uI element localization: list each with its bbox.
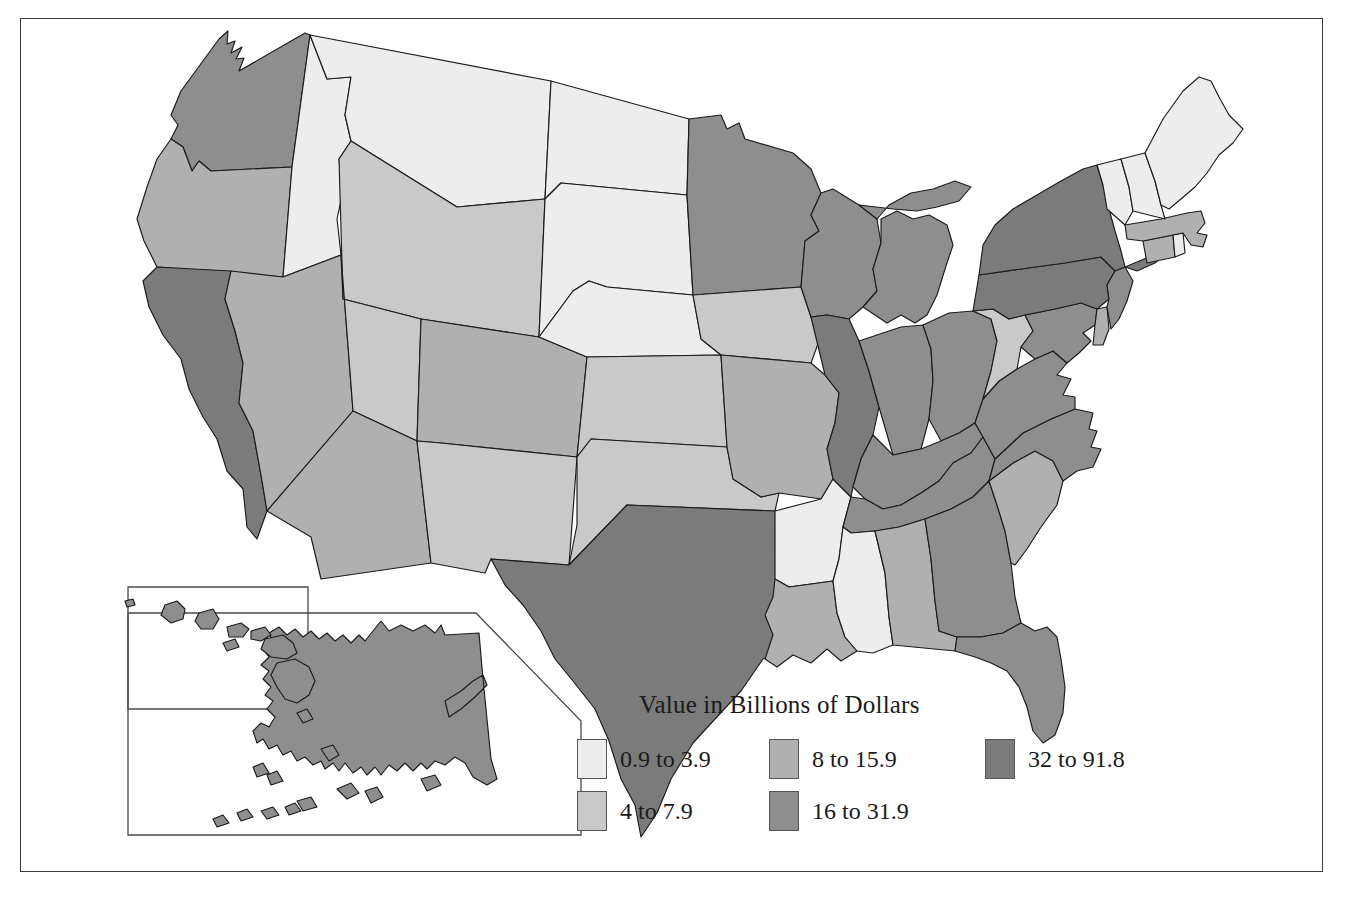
legend-swatch-1 [577, 791, 607, 831]
state-RI[interactable] [1173, 233, 1185, 257]
alaska-inset [213, 621, 497, 827]
scan-edge-artifact [0, 0, 1349, 14]
legend-entry-2[interactable]: 8 to 15.9 [769, 739, 985, 779]
legend-label-2: 8 to 15.9 [812, 747, 897, 771]
legend-label-1: 4 to 7.9 [620, 799, 693, 823]
legend-label-0: 0.9 to 3.9 [620, 747, 711, 771]
legend-entry-1[interactable]: 4 to 7.9 [577, 791, 769, 831]
legend-swatch-2 [769, 739, 799, 779]
legend-grid: 0.9 to 3.9 8 to 15.9 32 to 91.8 4 to 7.9 [577, 733, 997, 837]
state-ME[interactable] [1145, 77, 1243, 209]
legend-title: Value in Billions of Dollars [577, 691, 997, 719]
state-MO[interactable] [721, 355, 839, 499]
map-legend: Value in Billions of Dollars 0.9 to 3.9 … [577, 691, 997, 837]
map-stage: Value in Billions of Dollars 0.9 to 3.9 … [21, 19, 1324, 873]
legend-label-4: 32 to 91.8 [1028, 747, 1125, 771]
legend-label-3: 16 to 31.9 [812, 799, 909, 823]
state-ND[interactable] [545, 81, 689, 199]
legend-swatch-0 [577, 739, 607, 779]
state-MN[interactable] [687, 115, 821, 295]
state-WA[interactable] [171, 31, 310, 171]
legend-swatch-4 [985, 739, 1015, 779]
legend-swatch-3 [769, 791, 799, 831]
state-AK[interactable] [213, 621, 497, 827]
legend-entry-4[interactable]: 32 to 91.8 [985, 739, 1125, 779]
figure-frame: Value in Billions of Dollars 0.9 to 3.9 … [20, 18, 1323, 872]
hawaii-inset [125, 599, 315, 703]
state-HI[interactable] [125, 599, 315, 703]
legend-entry-3[interactable]: 16 to 31.9 [769, 791, 985, 831]
state-NM[interactable] [417, 441, 577, 573]
legend-entry-0[interactable]: 0.9 to 3.9 [577, 739, 769, 779]
